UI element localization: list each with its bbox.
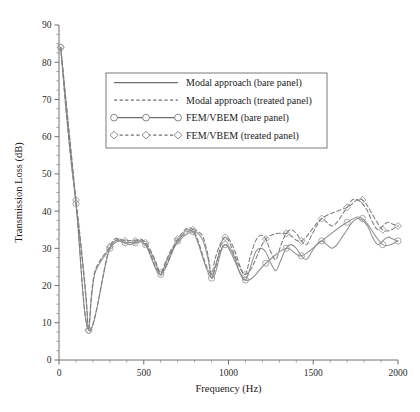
legend-label-3: FEM/VBEM (treated panel) (186, 130, 299, 142)
legend-label-2: FEM/VBEM (bare panel) (186, 112, 289, 124)
y-tick-label: 50 (42, 169, 52, 179)
legend-marker-circle (143, 114, 150, 121)
legend-label-0: Modal approach (bare panel) (186, 77, 302, 89)
x-tick-label: 500 (137, 368, 152, 378)
legend-marker-circle (175, 114, 182, 121)
y-tick-label: 0 (47, 355, 52, 365)
x-tick-label: 1500 (304, 368, 323, 378)
x-tick-label: 2000 (389, 368, 408, 378)
transmission-loss-chart: 01020304050607080900500100015002000 Moda… (0, 0, 420, 412)
y-tick-label: 10 (42, 318, 52, 328)
y-tick-label: 40 (42, 207, 52, 217)
y-tick-label: 20 (42, 281, 52, 291)
y-axis-title: Transmission Loss (dB) (13, 142, 25, 243)
legend-marker-circle (111, 114, 118, 121)
legend-label-1: Modal approach (treated panel) (186, 95, 312, 107)
y-tick-label: 80 (42, 58, 52, 68)
y-tick-label: 60 (42, 132, 52, 142)
chart-legend: Modal approach (bare panel)Modal approac… (106, 73, 327, 148)
x-tick-label: 0 (57, 368, 62, 378)
y-tick-label: 30 (42, 244, 52, 254)
y-tick-label: 90 (42, 20, 52, 30)
y-tick-label: 70 (42, 95, 52, 105)
x-axis-title: Frequency (Hz) (195, 383, 262, 395)
x-tick-label: 1000 (219, 368, 238, 378)
chart-figure: 01020304050607080900500100015002000 Moda… (0, 0, 420, 412)
